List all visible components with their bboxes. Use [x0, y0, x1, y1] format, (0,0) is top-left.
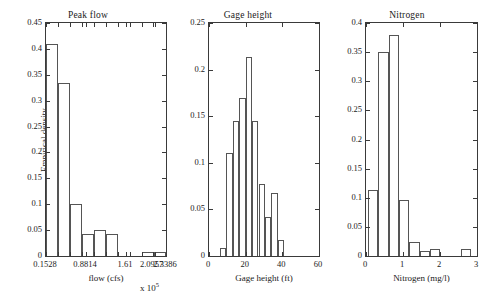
- x-tick: [282, 252, 283, 256]
- histogram-bar: [409, 242, 419, 256]
- histogram-bar: [461, 249, 471, 256]
- y-tick: [162, 178, 166, 179]
- x-axis-exponent: x 105: [140, 281, 159, 293]
- histogram-figure: Peak flow Empirical density 00.050.10.15…: [0, 0, 489, 302]
- x-tick: [126, 252, 127, 256]
- y-tick: [46, 127, 50, 128]
- x-tick: [403, 252, 404, 256]
- y-tick-label: 0.05: [347, 221, 362, 231]
- bars-group: [366, 23, 477, 256]
- y-tick: [46, 101, 50, 102]
- x-minor-tick: [142, 252, 143, 256]
- y-tick: [315, 116, 319, 117]
- y-tick: [162, 75, 166, 76]
- y-tick-label: 0.05: [190, 203, 205, 213]
- y-tick: [315, 256, 319, 257]
- x-tick: [403, 23, 404, 27]
- x-tick: [246, 252, 247, 256]
- x-minor-tick: [82, 23, 83, 27]
- y-tick: [315, 163, 319, 164]
- y-tick: [209, 256, 213, 257]
- y-tick-label: 0.1: [351, 192, 362, 202]
- x-tick: [319, 252, 320, 256]
- panel-nitrogen: Nitrogen 00.050.10.150.20.250.30.350.4 0…: [325, 0, 489, 302]
- x-tick-label: 40: [277, 259, 286, 269]
- x-minor-tick: [142, 23, 143, 27]
- x-tick: [366, 23, 367, 27]
- bars-group: [209, 23, 319, 256]
- x-tick-label: 0.8814: [73, 259, 96, 269]
- histogram-bar: [94, 230, 106, 256]
- y-tick: [162, 152, 166, 153]
- y-tick-label: 0.25: [27, 121, 42, 131]
- histogram-bar: [368, 190, 378, 256]
- x-minor-tick: [106, 252, 107, 256]
- y-tick: [46, 49, 50, 50]
- x-tick: [282, 23, 283, 27]
- y-tick: [473, 110, 477, 111]
- x-tick: [366, 252, 367, 256]
- y-tick: [46, 230, 50, 231]
- y-tick: [315, 70, 319, 71]
- y-tick: [162, 127, 166, 128]
- x-minor-tick: [94, 252, 95, 256]
- x-minor-tick: [106, 23, 107, 27]
- histogram-bar: [82, 234, 94, 256]
- x-tick-label: 1.61: [118, 259, 133, 269]
- x-tick: [209, 252, 210, 256]
- y-tick: [473, 227, 477, 228]
- x-tick-label: 2: [437, 259, 441, 269]
- x-tick: [166, 23, 167, 27]
- y-tick-label: 0.25: [190, 17, 205, 27]
- x-tick: [46, 23, 47, 27]
- y-tick: [473, 52, 477, 53]
- x-tick: [153, 23, 154, 27]
- y-tick: [473, 169, 477, 170]
- histogram-bar: [58, 83, 70, 256]
- y-tick-labels: 00.050.10.150.20.250.30.350.40.45: [0, 22, 42, 257]
- x-tick-labels: 0123: [365, 259, 478, 273]
- y-tick-label: 0.05: [27, 224, 42, 234]
- y-tick-label: 0.1: [31, 198, 42, 208]
- y-tick: [366, 256, 370, 257]
- y-tick: [162, 49, 166, 50]
- x-tick: [86, 23, 87, 27]
- y-tick-label: 0: [201, 250, 205, 260]
- x-tick-label: 60: [314, 259, 323, 269]
- y-tick: [366, 81, 370, 82]
- x-tick-label: 0: [363, 259, 367, 269]
- x-tick: [440, 23, 441, 27]
- y-tick: [366, 110, 370, 111]
- y-tick: [366, 169, 370, 170]
- x-tick: [166, 252, 167, 256]
- exponent-power: 5: [156, 281, 159, 288]
- y-tick: [46, 256, 50, 257]
- y-tick-label: 0.15: [190, 110, 205, 120]
- y-tick-labels: 00.050.10.150.20.25: [168, 22, 205, 257]
- y-tick: [366, 140, 370, 141]
- y-tick-label: 0.35: [27, 69, 42, 79]
- y-tick: [209, 163, 213, 164]
- y-tick-labels: 00.050.10.150.20.250.30.350.4: [325, 22, 362, 257]
- y-tick: [46, 152, 50, 153]
- x-tick: [440, 252, 441, 256]
- x-tick-label: 0: [206, 259, 210, 269]
- x-minor-tick: [118, 252, 119, 256]
- histogram-bar: [430, 249, 440, 256]
- x-tick-labels: 0.15280.88141.612.09572.3386: [45, 259, 167, 273]
- histogram-bar: [420, 251, 430, 256]
- plot-area: [365, 22, 478, 257]
- y-tick: [473, 81, 477, 82]
- x-axis-label: Nitrogen (mg/l): [365, 273, 478, 283]
- x-minor-tick: [82, 252, 83, 256]
- x-tick: [153, 252, 154, 256]
- plot-area: [208, 22, 320, 257]
- x-tick: [246, 23, 247, 27]
- y-tick-label: 0.3: [31, 95, 42, 105]
- y-tick: [366, 52, 370, 53]
- x-minor-tick: [130, 23, 131, 27]
- x-minor-tick: [130, 252, 131, 256]
- x-minor-tick: [118, 23, 119, 27]
- x-tick: [126, 23, 127, 27]
- histogram-bar: [70, 204, 82, 256]
